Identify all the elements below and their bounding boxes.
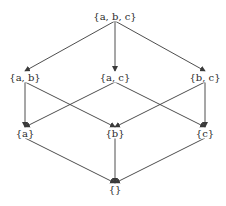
edge-abc-to-bc	[115, 21, 205, 71]
node-ac: {a, c}	[99, 72, 132, 83]
edge-a-to-empty	[25, 138, 115, 183]
node-abc: {a, b, c}	[92, 11, 137, 22]
edge-abc-to-ab	[25, 21, 115, 71]
node-c: {c}	[195, 128, 215, 139]
node-empty: {}	[108, 184, 123, 195]
edge-layer	[0, 0, 226, 206]
edge-c-to-empty	[115, 138, 205, 183]
node-bc: {b, c}	[188, 72, 221, 83]
node-a: {a}	[15, 128, 36, 139]
node-ab: {a, b}	[8, 72, 41, 83]
node-b: {b}	[104, 128, 125, 139]
hasse-diagram: {a, b, c} {a, b} {a, c} {b, c} {a} {b} {…	[0, 0, 226, 206]
